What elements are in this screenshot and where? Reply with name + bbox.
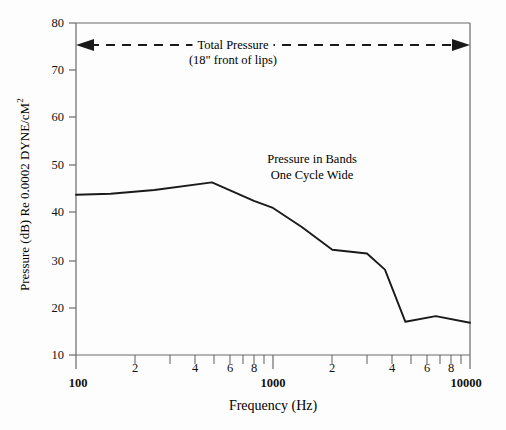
annotation-total-pressure-line1: Total Pressure [193, 38, 274, 54]
x-tick-label-8000: 8 [448, 362, 454, 375]
y-tick-label-80: 80 [40, 17, 64, 30]
y-axis-title: Pressure (dB) Re 0.0002 DYNE/cM2 [15, 65, 32, 325]
y-tick-label-30: 30 [40, 255, 64, 268]
data-curve [76, 182, 470, 322]
y-axis-title-text: Pressure (dB) Re 0.0002 DYNE/cM [17, 103, 32, 291]
x-tick-label-1000: 1000 [261, 377, 286, 390]
y-tick-label-40: 40 [40, 206, 64, 219]
x-tick-label-2000: 2 [329, 362, 335, 375]
annotation-pressure-in-bands-line2: One Cycle Wide [271, 168, 354, 184]
x-axis-minor-ticks [135, 355, 461, 364]
y-tick-label-70: 70 [40, 64, 64, 77]
y-tick-label-60: 60 [40, 111, 64, 124]
y-axis-title-exponent: 2 [15, 98, 25, 103]
x-tick-label-4000: 4 [389, 362, 395, 375]
plot-frame [76, 23, 470, 355]
x-tick-label-10000: 10000 [450, 377, 481, 390]
annotation-total-pressure-line2: (18" front of lips) [189, 53, 277, 69]
y-tick-label-10: 10 [40, 349, 64, 362]
y-tick-label-50: 50 [40, 159, 64, 172]
x-tick-label-800: 8 [251, 362, 257, 375]
annotation-pressure-in-bands-line1: Pressure in Bands [267, 152, 357, 168]
y-axis-ticks [69, 23, 76, 355]
chart-figure: 80 70 60 50 40 30 20 10 2 4 6 8 2 4 6 8 … [0, 0, 506, 430]
x-tick-label-100: 100 [69, 377, 88, 390]
x-tick-label-600: 6 [227, 362, 233, 375]
x-tick-label-6000: 6 [424, 362, 430, 375]
x-tick-label-200: 2 [132, 362, 138, 375]
y-tick-label-20: 20 [40, 302, 64, 315]
x-tick-label-400: 4 [192, 362, 198, 375]
x-axis-title: Frequency (Hz) [76, 398, 470, 414]
